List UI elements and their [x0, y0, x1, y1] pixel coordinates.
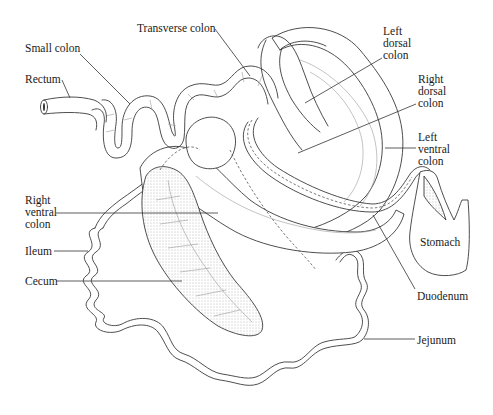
label-small-colon: Small colon	[25, 42, 80, 54]
label-left-ventral-colon: Left ventral colon	[418, 131, 450, 167]
label-duodenum: Duodenum	[417, 290, 468, 302]
label-ileum: Ileum	[25, 245, 52, 257]
label-right-ventral-colon: Right ventral colon	[25, 194, 57, 230]
large-colon-shape	[258, 28, 403, 240]
label-rectum: Rectum	[25, 73, 61, 85]
label-right-dorsal-colon: Right dorsal colon	[418, 73, 446, 109]
label-stomach: Stomach	[420, 236, 460, 248]
label-transverse-colon: Transverse colon	[137, 22, 215, 34]
rectum-shape	[41, 97, 107, 130]
label-jejunum: Jejunum	[417, 334, 456, 346]
stomach-shape	[410, 170, 470, 275]
label-cecum: Cecum	[25, 275, 58, 287]
digestive-tract-diagram	[0, 0, 493, 415]
small-colon-shape	[92, 66, 278, 158]
label-left-dorsal-colon: Left dorsal colon	[383, 25, 411, 61]
